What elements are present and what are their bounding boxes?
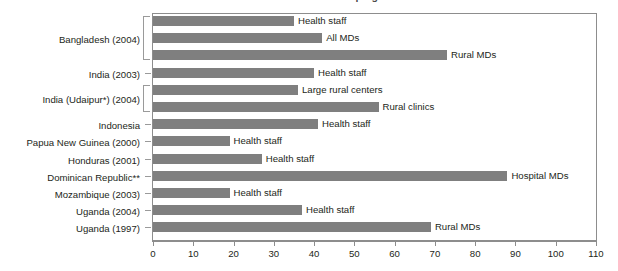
x-axis-tick-label: 30 (268, 248, 279, 259)
bar (153, 33, 322, 43)
bar-row: Health staff (153, 188, 596, 198)
x-axis-tick (193, 241, 194, 246)
x-axis-tick (515, 241, 516, 246)
bar-row: Health staff (153, 119, 596, 129)
x-axis-line (152, 241, 597, 242)
category-tick (145, 193, 151, 194)
bar-value-label: Rural clinics (383, 101, 435, 112)
x-axis-tick (314, 241, 315, 246)
bar-value-label: Health staff (234, 187, 282, 198)
figure-title: FIGURE 10-1 Nurse and Medical Doctor Abs… (4, 0, 431, 2)
category-tick (145, 141, 151, 142)
bar-row: Health staff (153, 16, 596, 26)
x-axis-tick (475, 241, 476, 246)
x-axis-tick-label: 80 (470, 248, 481, 259)
x-axis-tick (234, 241, 235, 246)
x-axis: 0102030405060708090100110 (152, 241, 597, 269)
category-label: Papua New Guinea (2000) (26, 137, 140, 148)
category-label: Indonesia (98, 120, 140, 131)
figure-container: FIGURE 10-1 Nurse and Medical Doctor Abs… (0, 0, 618, 271)
bar-series: Health staffAll MDsRural MDsHealth staff… (153, 14, 596, 240)
bar-row: Health staff (153, 136, 596, 146)
bar-row: Rural clinics (153, 102, 596, 112)
bar-row: Rural MDs (153, 50, 596, 60)
x-axis-tick (596, 241, 597, 246)
x-axis-tick-label: 70 (430, 248, 441, 259)
category-axis-labels: Bangladesh (2004)India (2003)India (Udai… (0, 13, 140, 241)
bar-row: All MDs (153, 33, 596, 43)
category-group-brace (143, 16, 150, 60)
bar-row: Health staff (153, 205, 596, 215)
bar (153, 102, 379, 112)
bar-value-label: Health staff (234, 135, 282, 146)
bar-value-label: Rural MDs (435, 221, 480, 232)
category-label: Uganda (2004) (76, 206, 140, 217)
x-axis-tick-label: 100 (548, 248, 564, 259)
category-label: Bangladesh (2004) (59, 34, 140, 45)
bar (153, 119, 318, 129)
category-label: Mozambique (2003) (55, 189, 140, 200)
bar (153, 205, 302, 215)
category-label: Uganda (1997) (76, 223, 140, 234)
bar (153, 154, 262, 164)
bar (153, 50, 447, 60)
category-tick (145, 124, 151, 125)
bar-row: Large rural centers (153, 85, 596, 95)
bar-value-label: Health staff (322, 118, 370, 129)
bar-value-label: Rural MDs (451, 49, 496, 60)
bar-row: Rural MDs (153, 222, 596, 232)
x-axis-tick (354, 241, 355, 246)
category-tick (145, 227, 151, 228)
bar (153, 171, 507, 181)
x-axis-tick (274, 241, 275, 246)
x-axis-tick-label: 50 (349, 248, 360, 259)
bar-row: Health staff (153, 154, 596, 164)
category-label: Honduras (2001) (68, 154, 140, 165)
bar (153, 16, 294, 26)
category-label: India (Udaipur*) (2004) (42, 94, 140, 105)
bar-value-label: Health staff (318, 67, 366, 78)
x-axis-tick-label: 0 (150, 248, 155, 259)
x-axis-tick (153, 241, 154, 246)
category-tick (145, 176, 151, 177)
bar-row: Hospital MDs (153, 171, 596, 181)
bar-value-label: All MDs (326, 32, 359, 43)
x-axis-tick (395, 241, 396, 246)
category-tick (145, 73, 151, 74)
x-axis-tick-label: 10 (188, 248, 199, 259)
bar-value-label: Hospital MDs (511, 170, 568, 181)
x-axis-tick-label: 60 (389, 248, 400, 259)
figure-title-strip: FIGURE 10-1 Nurse and Medical Doctor Abs… (0, 0, 618, 7)
bar-value-label: Large rural centers (302, 84, 383, 95)
category-tick (145, 210, 151, 211)
bar (153, 68, 314, 78)
bar (153, 136, 230, 146)
category-group-brace (143, 85, 150, 112)
bar (153, 85, 298, 95)
category-label: India (2003) (89, 68, 140, 79)
x-axis-tick-label: 110 (588, 248, 603, 259)
category-tick (145, 159, 151, 160)
x-axis-tick-label: 90 (510, 248, 521, 259)
x-axis-tick (435, 241, 436, 246)
category-label: Dominican Republic** (47, 171, 140, 182)
bar (153, 188, 230, 198)
bar-value-label: Health staff (306, 204, 354, 215)
x-axis-tick (556, 241, 557, 246)
bar-value-label: Health staff (298, 15, 346, 26)
bar-row: Health staff (153, 68, 596, 78)
bar (153, 222, 431, 232)
x-axis-tick-label: 40 (309, 248, 320, 259)
x-axis-tick-label: 20 (228, 248, 239, 259)
bar-value-label: Health staff (266, 153, 314, 164)
